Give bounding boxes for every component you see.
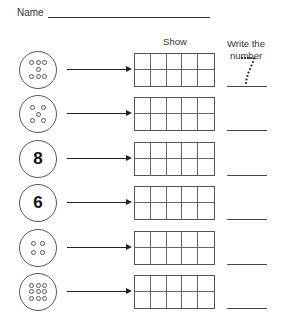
numeral: 8	[33, 149, 42, 169]
ten-frame[interactable]	[134, 186, 215, 220]
traced-seven-icon	[236, 55, 260, 86]
dots-icon	[20, 52, 56, 88]
worksheet-row: 6	[0, 184, 282, 224]
name-label: Name	[17, 7, 44, 18]
arrow-icon	[67, 113, 127, 114]
arrow-icon	[67, 69, 127, 70]
dot-circle-4	[19, 229, 57, 267]
ten-frame[interactable]	[134, 275, 215, 309]
dot-circle-7	[19, 51, 57, 89]
ten-frame[interactable]	[134, 53, 215, 87]
name-field: Name	[17, 7, 210, 18]
dots-icon	[20, 274, 56, 310]
answer-line[interactable]	[227, 219, 267, 220]
answer-line[interactable]	[227, 264, 267, 265]
worksheet-row	[0, 95, 282, 135]
worksheet-row	[0, 51, 282, 91]
show-column-header: Show	[160, 36, 190, 47]
worksheet-row	[0, 273, 282, 313]
name-input-line[interactable]	[48, 7, 210, 18]
arrow-icon	[67, 158, 127, 159]
answer-line[interactable]	[227, 175, 267, 176]
worksheet-row	[0, 229, 282, 269]
write-header-line1: Write the	[222, 38, 270, 50]
dots-icon	[20, 96, 56, 132]
arrow-icon	[67, 247, 127, 248]
answer-line[interactable]	[227, 86, 267, 87]
numeral: 6	[33, 193, 42, 213]
dot-circle-5	[19, 95, 57, 133]
ten-frame[interactable]	[134, 142, 215, 176]
ten-frame[interactable]	[134, 231, 215, 265]
arrow-icon	[67, 291, 127, 292]
numeral-circle: 8	[19, 140, 57, 178]
worksheet-row: 8	[0, 140, 282, 180]
dot-circle-9	[19, 273, 57, 311]
numeral-circle: 6	[19, 184, 57, 222]
answer-line[interactable]	[227, 130, 267, 131]
arrow-icon	[67, 202, 127, 203]
ten-frame[interactable]	[134, 97, 215, 131]
dots-icon	[20, 230, 56, 266]
answer-line[interactable]	[227, 308, 267, 309]
